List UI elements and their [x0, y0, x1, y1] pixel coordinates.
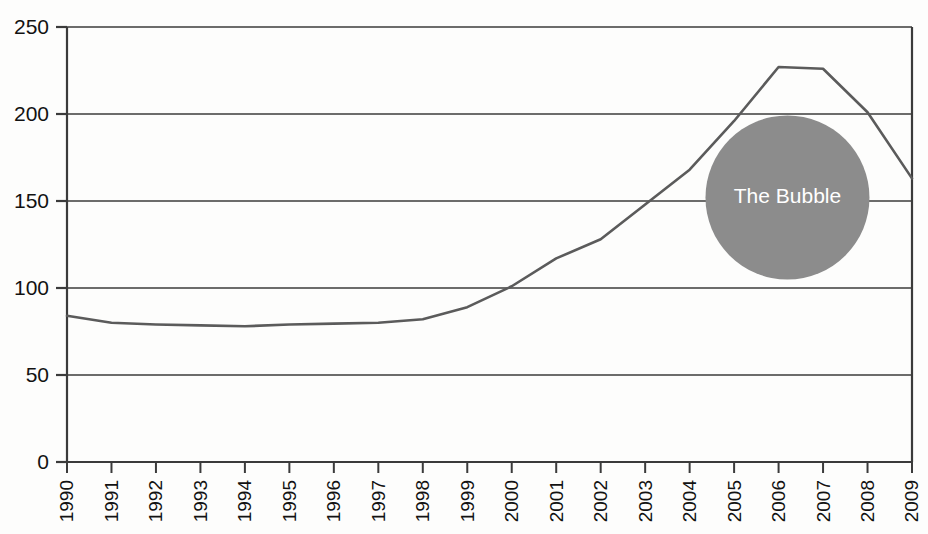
- x-tick-label: 1992: [145, 480, 166, 522]
- y-tick-label: 50: [26, 363, 49, 386]
- y-tick-label: 150: [14, 189, 49, 212]
- chart-container: 050100150200250 199019911992199319941995…: [0, 0, 928, 534]
- bubble-annotation: The Bubble: [705, 116, 869, 280]
- x-tick-label: 2000: [501, 480, 522, 522]
- x-tick-label: 2001: [546, 480, 567, 522]
- x-tick-label: 2004: [679, 480, 700, 523]
- y-tick-label: 250: [14, 15, 49, 38]
- x-tick-label: 2008: [857, 480, 878, 522]
- x-tick-label: 1991: [101, 480, 122, 522]
- x-tick-label: 2007: [813, 480, 834, 522]
- x-tick-label: 2003: [635, 480, 656, 522]
- x-axis-ticks: 1990199119921993199419951996199719981999…: [56, 462, 922, 522]
- x-tick-label: 1999: [457, 480, 478, 522]
- y-tick-label: 0: [37, 450, 49, 473]
- x-tick-label: 1993: [190, 480, 211, 522]
- x-tick-label: 1998: [412, 480, 433, 522]
- line-chart: 050100150200250 199019911992199319941995…: [0, 0, 928, 534]
- x-tick-label: 1997: [368, 480, 389, 522]
- x-tick-label: 2002: [590, 480, 611, 522]
- x-tick-label: 1994: [234, 480, 255, 523]
- x-tick-label: 2006: [768, 480, 789, 522]
- y-tick-label: 100: [14, 276, 49, 299]
- x-tick-label: 2005: [724, 480, 745, 522]
- bubble-label: The Bubble: [734, 184, 841, 207]
- x-tick-label: 1990: [56, 480, 77, 522]
- x-tick-label: 1996: [323, 480, 344, 522]
- y-axis-ticks: 050100150200250: [14, 15, 67, 473]
- x-tick-label: 2009: [901, 480, 922, 522]
- x-tick-label: 1995: [279, 480, 300, 522]
- y-tick-label: 200: [14, 102, 49, 125]
